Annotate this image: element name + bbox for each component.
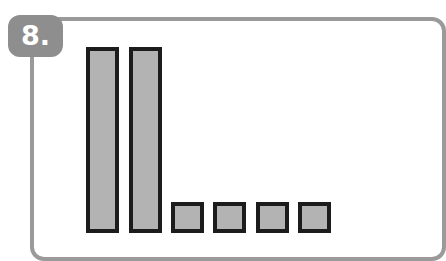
bar-2	[129, 47, 162, 233]
bar-6	[298, 202, 331, 233]
bar-5	[256, 202, 289, 233]
bar-1	[86, 47, 119, 233]
bar-3	[171, 202, 204, 233]
number-badge: 8.	[8, 15, 63, 57]
bar-4	[213, 202, 246, 233]
